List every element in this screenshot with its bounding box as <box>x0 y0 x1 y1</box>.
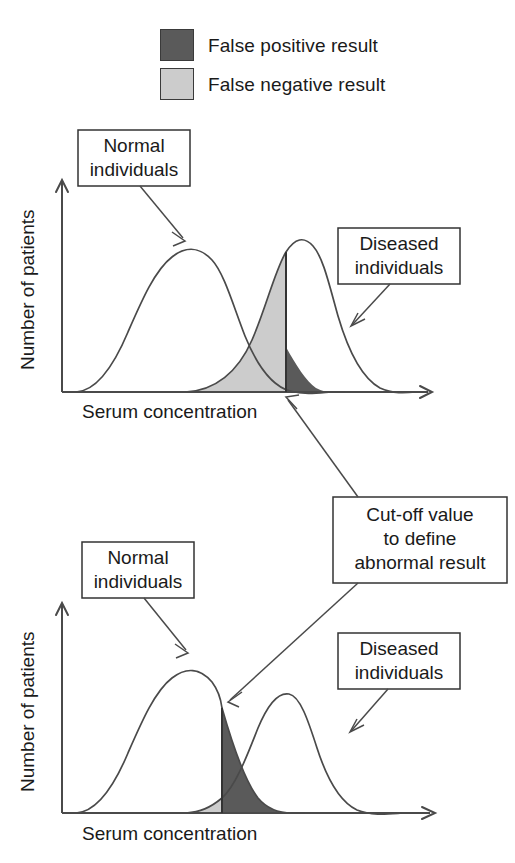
false-negative-region-bottom <box>186 798 222 813</box>
xaxis-label-bottom: Serum concentration <box>82 823 257 844</box>
chart-bottom: Normal individuals Diseased individuals … <box>0 530 515 863</box>
callout-diseased-bottom: Diseased individuals <box>338 633 460 732</box>
figure-root: False positive result False negative res… <box>0 0 515 863</box>
chart-top: Normal individuals Diseased individuals … <box>0 110 515 430</box>
false-positive-region-top <box>286 347 331 392</box>
legend-label-false-positive: False positive result <box>208 36 378 55</box>
callout-diseased-bottom-line1: Diseased <box>359 638 438 659</box>
callout-normal-top: Normal individuals <box>78 130 190 246</box>
chart-top-svg: Normal individuals Diseased individuals … <box>0 110 515 430</box>
callout-diseased-top-line1: Diseased <box>359 233 438 254</box>
xaxis-label-top: Serum concentration <box>82 401 257 422</box>
legend-item-false-positive: False positive result <box>160 29 378 61</box>
callout-normal-top-line2: individuals <box>90 159 179 180</box>
legend-label-false-negative: False negative result <box>208 75 385 94</box>
callout-diseased-bottom-line2: individuals <box>355 662 444 683</box>
cutoff-callout-line1: Cut-off value <box>366 504 473 525</box>
normal-curve-bottom <box>76 671 305 813</box>
callout-normal-bottom-line2: individuals <box>94 571 183 592</box>
false-negative-swatch-icon <box>160 68 194 100</box>
chart-bottom-svg: Normal individuals Diseased individuals … <box>0 530 515 863</box>
callout-normal-bottom: Normal individuals <box>82 542 194 658</box>
callout-diseased-top: Diseased individuals <box>338 228 460 326</box>
yaxis-label-top: Number of patients <box>17 209 38 370</box>
legend: False positive result False negative res… <box>0 0 515 110</box>
callout-diseased-top-line2: individuals <box>355 257 444 278</box>
yaxis-label-bottom: Number of patients <box>17 631 38 792</box>
false-negative-region-top <box>185 252 286 392</box>
normal-curve-top <box>76 249 345 393</box>
false-positive-swatch-icon <box>160 29 194 61</box>
legend-item-false-negative: False negative result <box>160 68 385 100</box>
callout-normal-bottom-line1: Normal <box>107 547 168 568</box>
callout-normal-top-line1: Normal <box>103 135 164 156</box>
diseased-curve-bottom <box>186 694 402 814</box>
